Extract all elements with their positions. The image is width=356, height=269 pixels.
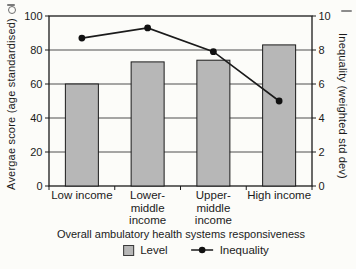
inequality-marker-icon: [190, 245, 214, 255]
level-swatch-icon: [123, 245, 134, 256]
y-axis-left-title: Avergae score (age standardised): [5, 18, 17, 190]
y-right-tick-label: 6: [319, 78, 325, 90]
y-right-tick-label: 2: [319, 146, 325, 158]
y-left-tick-label: 80: [30, 44, 42, 56]
y-left-tick-label: 40: [30, 112, 42, 124]
y-left-tick-label: 100: [24, 10, 42, 22]
legend-inequality-label: Inequality: [220, 244, 269, 256]
y-left-tick-label: 60: [30, 78, 42, 90]
inequality-line: [82, 28, 279, 101]
inequality-point: [144, 25, 151, 32]
y-right-tick-label: 8: [319, 44, 325, 56]
inequality-point: [276, 98, 283, 105]
y-left-tick-label: 20: [30, 146, 42, 158]
chart-caption: Overall ambulatory health systems respon…: [57, 228, 305, 240]
y-right-tick-label: 10: [319, 10, 331, 22]
bar-level: [131, 62, 164, 186]
bar-level: [197, 60, 230, 186]
y-right-tick-label: 4: [319, 112, 325, 124]
inequality-point: [210, 48, 217, 55]
bar-level: [65, 84, 98, 186]
chart-figure: 0204060801000246810 Avergae score (age s…: [0, 0, 356, 269]
y-axis-right-title: Inequality (weighted std dev): [337, 33, 349, 179]
inequality-point: [78, 35, 85, 42]
y-left-tick-label: 0: [36, 180, 42, 192]
bar-level: [263, 45, 296, 186]
y-right-tick-label: 0: [319, 180, 325, 192]
legend-level-label: Level: [140, 244, 168, 256]
legend: Level Inequality: [123, 244, 269, 256]
